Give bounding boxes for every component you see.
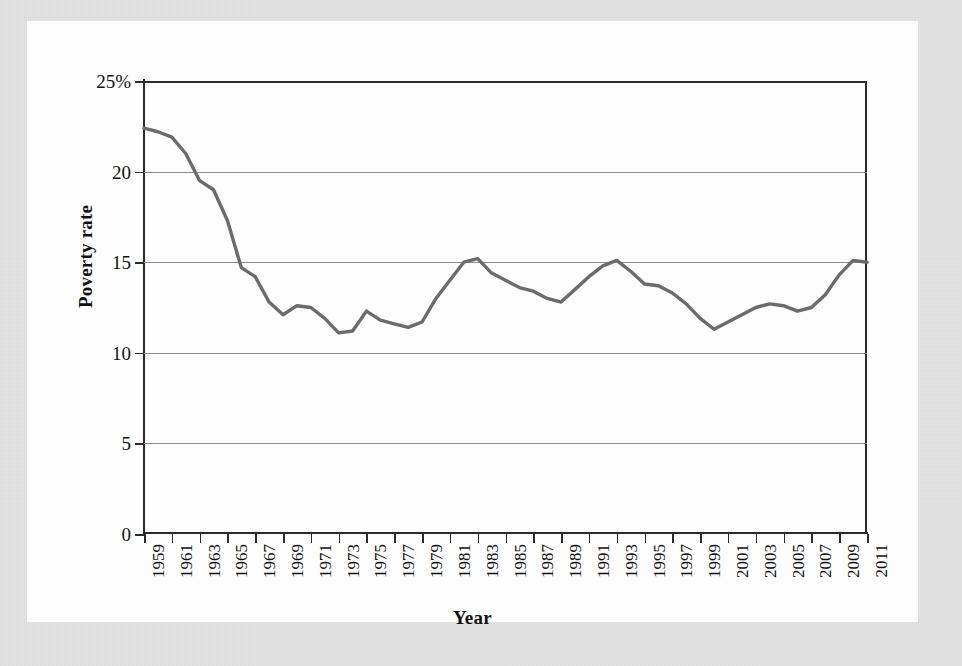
x-tick-2005	[784, 534, 786, 543]
x-tick-2011	[867, 534, 869, 543]
y-tick-label-10: 10	[112, 343, 131, 362]
y-tick-label-15: 15	[112, 253, 131, 272]
x-tick-1969	[283, 534, 285, 543]
x-tick-1985	[506, 534, 508, 543]
x-tick-2009	[839, 534, 841, 543]
x-tick-label-2007: 2007	[817, 544, 834, 578]
y-tick-25	[135, 81, 144, 83]
y-axis-title: Poverty rate	[75, 205, 97, 308]
x-tick-label-1993: 1993	[623, 544, 640, 578]
x-tick-label-1965: 1965	[233, 544, 250, 578]
x-tick-1993	[617, 534, 619, 543]
x-tick-1967	[255, 534, 257, 543]
x-axis-title: Year	[27, 607, 918, 629]
x-tick-label-1975: 1975	[372, 544, 389, 578]
x-tick-2001	[728, 534, 730, 543]
x-tick-label-1987: 1987	[539, 544, 556, 578]
x-tick-1987	[533, 534, 535, 543]
x-tick-1989	[561, 534, 563, 543]
figure-panel: Poverty rate Year 0510152025% 1959196119…	[27, 21, 918, 622]
x-tick-2003	[756, 534, 758, 543]
y-tick-label-25: 25%	[96, 72, 131, 91]
y-tick-label-20: 20	[112, 162, 131, 181]
x-tick-label-1995: 1995	[651, 544, 668, 578]
x-tick-label-1973: 1973	[345, 544, 362, 578]
x-tick-1975	[366, 534, 368, 543]
x-tick-label-2001: 2001	[734, 544, 751, 578]
x-tick-label-1997: 1997	[678, 544, 695, 578]
x-tick-label-2011: 2011	[873, 544, 890, 577]
x-tick-1995	[645, 534, 647, 543]
x-tick-label-1961: 1961	[178, 544, 195, 578]
x-tick-label-1959: 1959	[150, 544, 167, 578]
y-tick-20	[135, 172, 144, 174]
x-tick-label-2005: 2005	[790, 544, 807, 578]
x-tick-1971	[311, 534, 313, 543]
x-tick-1979	[422, 534, 424, 543]
x-tick-1977	[394, 534, 396, 543]
x-tick-label-1999: 1999	[706, 544, 723, 578]
x-tick-1983	[478, 534, 480, 543]
x-tick-1991	[589, 534, 591, 543]
poverty-rate-series	[144, 81, 867, 534]
x-tick-label-2003: 2003	[762, 544, 779, 578]
y-tick-label-0: 0	[122, 525, 132, 544]
y-tick-0	[135, 534, 144, 536]
x-tick-1981	[450, 534, 452, 543]
x-tick-label-1991: 1991	[595, 544, 612, 578]
x-tick-label-1969: 1969	[289, 544, 306, 578]
x-tick-2007	[811, 534, 813, 543]
x-tick-1963	[200, 534, 202, 543]
x-tick-label-1983: 1983	[484, 544, 501, 578]
x-tick-1999	[700, 534, 702, 543]
x-tick-1997	[672, 534, 674, 543]
x-tick-label-1977: 1977	[400, 544, 417, 578]
plot-area: 0510152025% 1959196119631965196719691971…	[144, 81, 867, 534]
x-tick-label-1985: 1985	[512, 544, 529, 578]
x-tick-label-1963: 1963	[206, 544, 223, 578]
x-tick-1961	[172, 534, 174, 543]
y-tick-10	[135, 353, 144, 355]
x-tick-label-1979: 1979	[428, 544, 445, 578]
x-tick-1959	[144, 534, 146, 543]
x-tick-label-2009: 2009	[845, 544, 862, 578]
x-tick-1965	[227, 534, 229, 543]
x-tick-label-1981: 1981	[456, 544, 473, 578]
x-tick-1973	[339, 534, 341, 543]
y-tick-5	[135, 443, 144, 445]
y-tick-label-5: 5	[122, 434, 132, 453]
figure-page: Poverty rate Year 0510152025% 1959196119…	[0, 0, 962, 666]
y-tick-15	[135, 262, 144, 264]
x-tick-label-1989: 1989	[567, 544, 584, 578]
x-tick-label-1967: 1967	[261, 544, 278, 578]
x-tick-label-1971: 1971	[317, 544, 334, 578]
